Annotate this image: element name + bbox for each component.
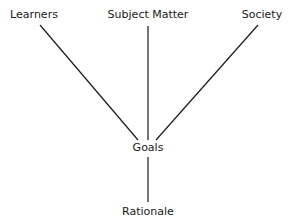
node-learners: Learners bbox=[10, 8, 58, 21]
connector-lines bbox=[0, 0, 294, 224]
node-society: Society bbox=[242, 8, 282, 21]
edge-learners-goals bbox=[40, 25, 138, 140]
node-rationale: Rationale bbox=[122, 205, 174, 218]
node-goals: Goals bbox=[133, 141, 164, 154]
node-subject-matter: Subject Matter bbox=[108, 8, 189, 21]
edge-society-goals bbox=[156, 25, 258, 140]
